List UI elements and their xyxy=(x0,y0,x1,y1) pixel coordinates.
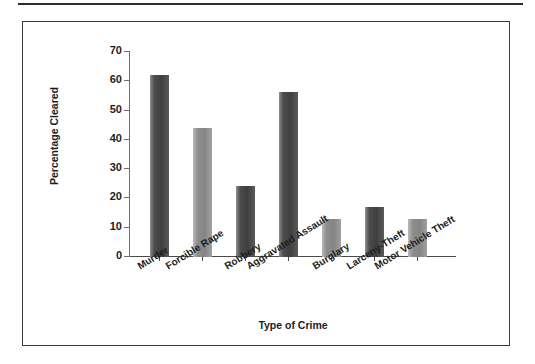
y-tick-label-20-wrap: 20 xyxy=(78,191,122,203)
y-tick-label-0-wrap: 0 xyxy=(78,250,122,262)
y-tick-label-60-wrap: 60 xyxy=(78,74,122,86)
y-tick-label-70-wrap: 70 xyxy=(78,45,122,57)
y-tick-label-0: 0 xyxy=(82,250,122,261)
y-tick-label-20: 20 xyxy=(82,191,122,202)
figure-root: 0 10 20 30 40 50 60 xyxy=(0,0,535,364)
page-top-rule xyxy=(18,3,523,5)
bar-murder xyxy=(150,75,169,257)
x-tick-3 xyxy=(288,257,289,261)
y-tick-label-30-wrap: 30 xyxy=(78,162,122,174)
y-axis-title: Percentage Cleared xyxy=(48,66,60,206)
y-tick-label-60: 60 xyxy=(82,74,122,85)
y-tick-label-70: 70 xyxy=(82,45,122,56)
y-tick-label-40-wrap: 40 xyxy=(78,133,122,145)
chart-frame: 0 10 20 30 40 50 60 xyxy=(22,21,510,346)
bars-layer xyxy=(130,51,456,257)
y-tick-label-10-wrap: 10 xyxy=(78,221,122,233)
plot-area: 0 10 20 30 40 50 60 xyxy=(23,22,511,347)
y-tick-label-10: 10 xyxy=(82,221,122,232)
y-tick-label-50-wrap: 50 xyxy=(78,104,122,116)
x-axis-title: Type of Crime xyxy=(129,319,457,331)
y-tick-label-40: 40 xyxy=(82,133,122,144)
x-tick-6 xyxy=(417,257,418,261)
x-tick-1 xyxy=(202,257,203,261)
y-tick-label-30: 30 xyxy=(82,162,122,173)
y-tick-label-50: 50 xyxy=(82,104,122,115)
